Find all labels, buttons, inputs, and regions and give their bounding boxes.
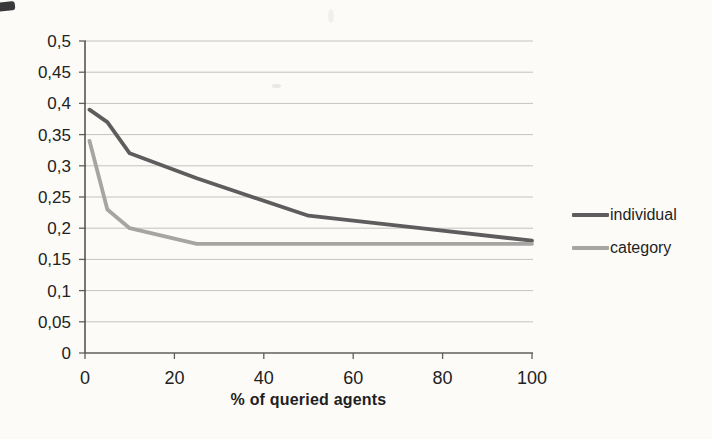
- y-tick-label: 0,5: [47, 32, 71, 51]
- x-tick-label: 100: [517, 368, 547, 388]
- chart-legend: individual category: [572, 205, 677, 257]
- legend-swatch-individual: [572, 213, 609, 217]
- y-tick-label: 0,25: [38, 188, 71, 207]
- legend-item-individual: individual: [572, 205, 677, 224]
- series-line-individual: [89, 110, 532, 241]
- y-tick-label: 0,35: [38, 126, 71, 145]
- scanned-line-chart-page: 00,050,10,150,20,250,30,350,40,450,50204…: [0, 0, 712, 439]
- legend-label-category: category: [610, 239, 671, 257]
- x-axis-title: % of queried agents: [85, 391, 532, 409]
- y-tick-label: 0,05: [38, 313, 71, 332]
- y-tick-label: 0,15: [38, 250, 71, 269]
- y-tick-label: 0,3: [47, 157, 71, 176]
- y-tick-label: 0,2: [47, 219, 71, 238]
- x-tick-label: 60: [343, 368, 363, 388]
- x-tick-label: 0: [80, 368, 90, 388]
- y-tick-label: 0,4: [47, 94, 71, 113]
- legend-item-category: category: [572, 238, 677, 257]
- y-tick-label: 0,1: [47, 282, 71, 301]
- y-tick-label: 0: [62, 344, 71, 363]
- x-tick-label: 40: [254, 368, 274, 388]
- legend-label-individual: individual: [610, 206, 677, 224]
- legend-swatch-category: [572, 246, 609, 250]
- scan-speck: [272, 84, 281, 88]
- x-tick-label: 80: [433, 368, 453, 388]
- scan-speck: [328, 9, 334, 23]
- x-tick-label: 20: [164, 368, 184, 388]
- y-tick-label: 0,45: [38, 63, 71, 82]
